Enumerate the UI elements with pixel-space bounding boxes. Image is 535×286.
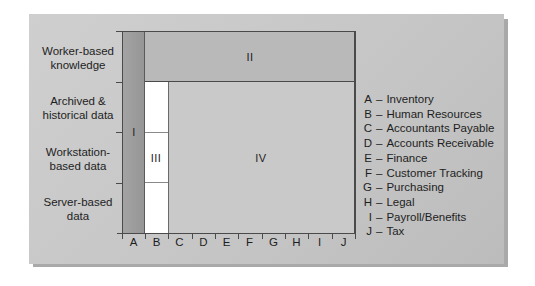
row-label-line: Worker-based	[36, 44, 120, 58]
legend-sep: –	[372, 107, 386, 122]
legend-value: Tax	[386, 224, 404, 239]
row-label-line: based data	[36, 159, 120, 173]
legend-item: B–Human Resources	[360, 107, 494, 122]
row-label-line: Server-based	[36, 195, 120, 209]
col-label-f: F	[238, 236, 261, 248]
col-label-g: G	[262, 236, 285, 248]
legend-key: J	[360, 224, 372, 239]
col-label-c: C	[168, 236, 191, 248]
row-label-line: historical data	[36, 108, 120, 122]
col-label-e: E	[215, 236, 238, 248]
legend-key: D	[360, 136, 372, 151]
legend-item: A–Inventory	[360, 92, 494, 107]
legend-value: Inventory	[386, 92, 433, 107]
row-tick	[116, 132, 122, 133]
legend-value: Customer Tracking	[386, 166, 483, 181]
row-label-line: knowledge	[36, 58, 120, 72]
legend-value: Purchasing	[386, 180, 444, 195]
legend-sep: –	[372, 224, 386, 239]
legend-key: E	[360, 151, 372, 166]
legend-key: I	[360, 210, 372, 225]
legend-item: D–Accounts Receivable	[360, 136, 494, 151]
region-ii-label: II	[246, 51, 253, 63]
legend-key: G	[360, 180, 372, 195]
legend-key: B	[360, 107, 372, 122]
legend-item: I–Payroll/Benefits	[360, 210, 494, 225]
legend-value: Legal	[386, 195, 414, 210]
row-label-archived-data: Archived & historical data	[36, 94, 120, 122]
col-tick	[355, 233, 356, 239]
legend-key: H	[360, 195, 372, 210]
legend: A–Inventory B–Human Resources C–Accounta…	[360, 92, 494, 239]
legend-key: F	[360, 166, 372, 181]
right-axis-line	[355, 31, 356, 233]
legend-value: Accountants Payable	[386, 121, 494, 136]
region-iii-label: III	[151, 152, 162, 164]
legend-sep: –	[372, 92, 386, 107]
col-label-a: A	[122, 236, 145, 248]
col-label-j: J	[332, 236, 355, 248]
legend-key: C	[360, 121, 372, 136]
legend-value: Accounts Receivable	[386, 136, 493, 151]
row-label-line: Workstation-	[36, 145, 120, 159]
legend-sep: –	[372, 195, 386, 210]
legend-sep: –	[372, 180, 386, 195]
legend-sep: –	[372, 166, 386, 181]
legend-item: C–Accountants Payable	[360, 121, 494, 136]
bottom-axis-line	[117, 233, 355, 234]
legend-key: A	[360, 92, 372, 107]
col-label-i: I	[308, 236, 331, 248]
row-tick	[116, 82, 122, 83]
col-label-d: D	[192, 236, 215, 248]
region-i-label: I	[132, 126, 136, 138]
row-label-worker-knowledge: Worker-based knowledge	[36, 44, 120, 72]
row-label-workstation-data: Workstation- based data	[36, 145, 120, 173]
legend-item: J–Tax	[360, 224, 494, 239]
top-axis-line	[116, 31, 355, 32]
legend-value: Finance	[386, 151, 427, 166]
row-label-line: data	[36, 209, 120, 223]
legend-sep: –	[372, 136, 386, 151]
legend-sep: –	[372, 210, 386, 225]
legend-value: Payroll/Benefits	[386, 210, 466, 225]
legend-item: E–Finance	[360, 151, 494, 166]
legend-sep: –	[372, 121, 386, 136]
legend-item: F–Customer Tracking	[360, 166, 494, 181]
col-label-h: H	[285, 236, 308, 248]
row-tick	[116, 183, 122, 184]
row-label-server-data: Server-based data	[36, 195, 120, 223]
legend-sep: –	[372, 151, 386, 166]
col-label-b: B	[145, 236, 168, 248]
legend-item: H–Legal	[360, 195, 494, 210]
legend-value: Human Resources	[386, 107, 481, 122]
row-label-line: Archived &	[36, 94, 120, 108]
legend-item: G–Purchasing	[360, 180, 494, 195]
region-iv-label: IV	[255, 152, 266, 164]
